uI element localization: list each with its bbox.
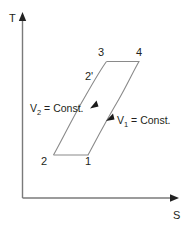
ts-diagram-svg: T S 1 2 2' 3 4 V2 = Const. V1 = Const. [0,0,192,238]
state-point-label-3: 3 [98,46,104,58]
label-v1-const-symbol: V [117,114,124,126]
t-axis-label: T [9,12,16,24]
label-v1-const: V1 = Const. [117,114,171,129]
s-axis-label: S [173,209,180,221]
label-v2-const-text: = Const. [41,102,83,114]
state-point-label-2-prime: 2' [85,70,93,82]
t-axis-arrowhead [19,12,26,21]
state-point-label-1: 1 [85,155,91,167]
ts-diagram-canvas: T S 1 2 2' 3 4 V2 = Const. V1 = Const. [0,0,192,238]
direction-arrow-left-curve [90,101,99,109]
label-v2-const-symbol: V [30,102,37,114]
state-point-label-2: 2 [41,155,47,167]
state-point-label-4: 4 [136,46,142,58]
label-v1-const-text: = Const. [128,114,170,126]
s-axis-arrowhead [170,194,179,201]
curve-v1-const [88,62,139,156]
